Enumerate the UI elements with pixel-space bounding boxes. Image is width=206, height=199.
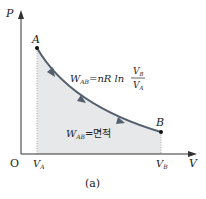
y-axis-arrow-icon [18, 10, 24, 19]
area-label: WAB=면적 [66, 128, 111, 140]
origin-label: O [10, 157, 19, 170]
pv-diagram: P V O A B VA VB WAB=nR ln VB VA WAB=면적 (… [0, 0, 206, 199]
svg-text:WAB=nR ln: WAB=nR ln [70, 73, 124, 85]
point-a-label: A [31, 33, 40, 46]
figure-caption: (a) [85, 177, 100, 190]
point-b-label: B [155, 116, 164, 129]
work-formula: WAB=nR ln VB VA [70, 66, 145, 91]
point-a [35, 46, 39, 50]
svg-text:VB: VB [133, 66, 144, 77]
x-axis-label: V [189, 157, 198, 170]
va-tick-label: VA [33, 158, 45, 170]
vb-tick-label: VB [156, 158, 168, 170]
y-axis-label: P [5, 7, 14, 20]
svg-text:VA: VA [133, 80, 144, 91]
point-b [159, 130, 163, 134]
